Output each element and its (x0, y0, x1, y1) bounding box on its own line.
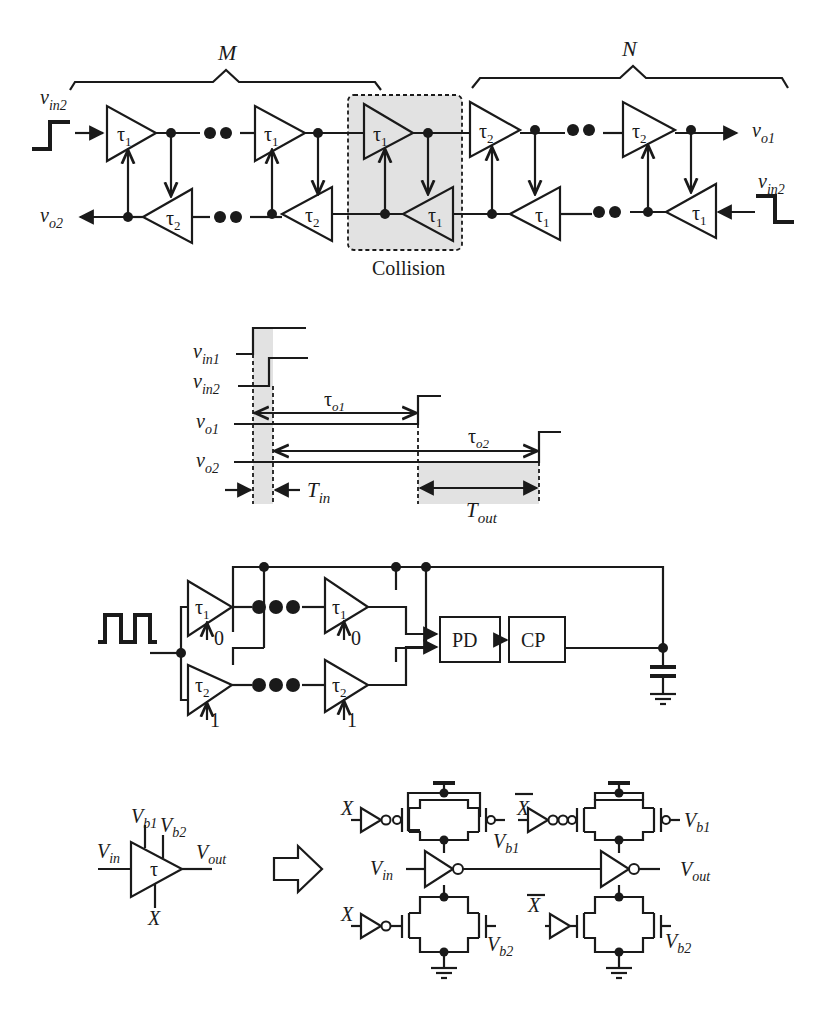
stage-right: Vb1 X Vout (515, 783, 711, 978)
x-label: X (147, 907, 161, 929)
channel (409, 913, 479, 938)
buffer-tau1 (255, 106, 305, 161)
control-value: 1 (210, 709, 220, 731)
wire (233, 648, 264, 665)
channel (409, 808, 479, 832)
cell-tau-label: τ (150, 858, 158, 880)
brace-n-label: N (621, 36, 638, 61)
vb1-label: Vb1 (684, 809, 710, 835)
control-inverter (528, 808, 548, 832)
delay-label-o1: τo1 (324, 388, 345, 414)
control-value: 0 (351, 627, 361, 649)
buffer-tau2 (470, 102, 520, 157)
vo1-label: vo1 (752, 119, 775, 146)
control-value: 0 (214, 627, 224, 649)
signal-label-vin2: vin2 (193, 370, 220, 397)
step-input-right-icon (756, 196, 794, 222)
vin-label: Vin (370, 857, 393, 883)
vin2-left-label: vin2 (40, 86, 67, 113)
implementation-arrow-icon (274, 846, 322, 892)
clock-input-icon (98, 615, 157, 642)
wire (396, 648, 426, 662)
vin2-right-label: vin2 (758, 170, 785, 197)
vb1-label: Vb1 (131, 805, 157, 831)
delay-label-o2: τo2 (468, 425, 490, 451)
stage-left: Vb1 X Vin Vb2 (340, 783, 519, 978)
channel (584, 913, 654, 938)
tin-label: Tin (307, 478, 330, 506)
vb2-label: Vb2 (665, 930, 691, 956)
tout-shade (418, 461, 539, 504)
cp-label: CP (521, 629, 545, 651)
signal-label-vin1: vin1 (193, 340, 220, 367)
vo2-label: vo2 (40, 204, 63, 231)
signal-label-vo1: vo1 (196, 410, 219, 437)
wire (409, 800, 479, 808)
collision-label: Collision (372, 257, 445, 279)
control-buffer (550, 914, 570, 938)
vout-label: Vout (196, 841, 227, 867)
vin-label: Vin (97, 840, 120, 866)
wire (368, 647, 437, 685)
brace-n (472, 66, 788, 88)
channel (584, 808, 654, 832)
panel-d-cell-implementation: τ Vin Vb1 Vb2 Vout X V (97, 783, 711, 978)
waveform-vo2 (234, 432, 561, 462)
tin-shade (253, 328, 273, 504)
inverter (601, 851, 629, 887)
x-label: X (340, 903, 354, 925)
brace-m-label: M (217, 40, 238, 65)
vb2-label: Vb2 (487, 933, 513, 959)
x-label: X (340, 797, 354, 819)
signal-label-vo2: vo2 (196, 449, 219, 476)
panel-b-timing-diagram: vin1 vin2 vo1 vo2 τo1 τo2 Tin Tout (193, 328, 561, 526)
buffer-tau1 (666, 184, 716, 238)
figure-canvas: M N Collision vin2 vo1 τ1 τ1 τ1 τ2 τ2 (0, 0, 823, 1015)
brace-m (70, 70, 381, 90)
xbar-label: X (527, 894, 541, 916)
inverter (425, 851, 453, 887)
pd-label: PD (452, 629, 478, 651)
panel-a-bidirectional-delay-line: M N Collision vin2 vo1 τ1 τ1 τ1 τ2 τ2 (32, 36, 794, 279)
control-buffer (361, 808, 381, 832)
control-inverter (361, 914, 381, 938)
vb1-label: Vb1 (493, 830, 519, 856)
vout-label: Vout (680, 858, 711, 884)
wire (584, 800, 654, 808)
control-value: 1 (347, 709, 357, 731)
panel-c-calibration-loop: τ1 τ1 0 0 τ2 τ2 1 1 PD CP (98, 562, 676, 731)
step-input-left-icon (32, 122, 70, 149)
